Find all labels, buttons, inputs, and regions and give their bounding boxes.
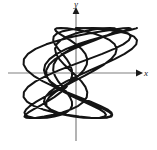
lissajous-figure: x y: [0, 0, 157, 150]
y-axis-label: y: [73, 0, 78, 9]
x-axis-label: x: [143, 68, 148, 78]
plot-canvas: x y: [0, 0, 157, 150]
x-axis-arrowhead: [136, 70, 143, 77]
